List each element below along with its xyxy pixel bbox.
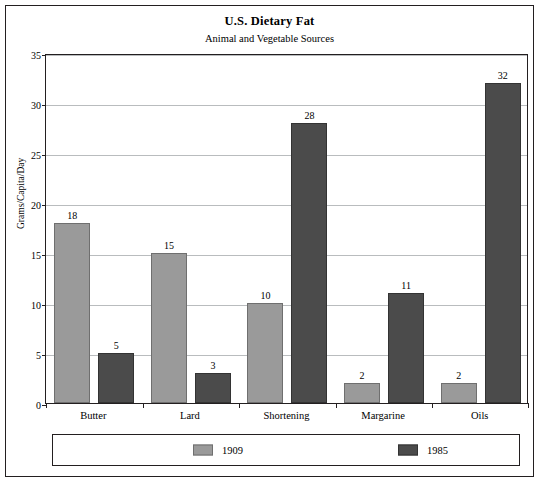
bar-group: 232 [432,55,529,403]
y-axis-label: Grams/Capita/Day [16,158,26,229]
chart-title: U.S. Dietary Fat [6,14,533,29]
legend-label-1909: 1909 [222,445,243,456]
x-axis-tick-mark [528,403,529,408]
bar-group: 153 [143,55,240,403]
chart-outer-border: U.S. Dietary Fat Animal and Vegetable So… [5,5,534,477]
y-axis-tick-label: 25 [31,150,41,161]
x-axis-tick-mark [336,403,337,408]
x-axis-category-oils: Oils [431,410,528,421]
x-axis-tick-mark [46,403,47,408]
bar-butter-1985: 5 [98,353,134,403]
bar-shortening-1985: 28 [291,123,327,403]
bar-lard-1985: 3 [195,373,231,403]
legend-label-1985: 1985 [427,445,448,456]
plot-area: 051015202530351851531028211232 [45,54,528,404]
bar-lard-1909: 15 [151,253,187,403]
y-axis-tick-label: 10 [31,300,41,311]
x-axis-tick-mark [143,403,144,408]
x-axis-category-shortening: Shortening [238,410,335,421]
x-axis-category-margarine: Margarine [335,410,432,421]
y-axis-tick-label: 30 [31,100,41,111]
bar-value-label: 2 [456,370,461,381]
bar-group: 1028 [239,55,336,403]
bar-value-label: 5 [114,340,119,351]
x-axis-category-lard: Lard [142,410,239,421]
bar-margarine-1909: 2 [344,383,380,403]
legend-entry-1985: 1985 [398,445,448,456]
chart-subtitle: Animal and Vegetable Sources [6,33,533,44]
y-axis-tick-label: 20 [31,200,41,211]
bar-group: 185 [46,55,143,403]
y-axis-tick-label: 0 [36,400,41,411]
bar-butter-1909: 18 [54,223,90,403]
bar-value-label: 2 [360,370,365,381]
bar-value-label: 3 [210,360,215,371]
bar-group: 211 [336,55,433,403]
y-axis-tick-label: 35 [31,50,41,61]
chart-legend: 19091985 [52,434,520,466]
legend-swatch-1909 [193,445,213,456]
bar-value-label: 15 [164,240,174,251]
bar-value-label: 10 [260,290,270,301]
legend-entry-1909: 1909 [193,445,243,456]
y-axis-tick-label: 15 [31,250,41,261]
chart-screenshot: U.S. Dietary Fat Animal and Vegetable So… [0,0,539,483]
bar-oils-1985: 32 [485,83,521,403]
x-axis-tick-mark [432,403,433,408]
bar-value-label: 18 [67,210,77,221]
bar-oils-1909: 2 [441,383,477,403]
x-axis-category-butter: Butter [45,410,142,421]
legend-swatch-1985 [398,445,418,456]
bar-value-label: 28 [304,110,314,121]
bar-shortening-1909: 10 [247,303,283,403]
x-axis-tick-mark [239,403,240,408]
y-axis-tick-label: 5 [36,350,41,361]
bar-value-label: 11 [401,280,411,291]
bar-value-label: 32 [498,70,508,81]
bar-margarine-1985: 11 [388,293,424,403]
